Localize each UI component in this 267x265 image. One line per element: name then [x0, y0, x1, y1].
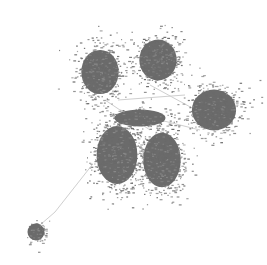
node-cluster-small-outlier — [27, 220, 50, 253]
network-graph — [0, 0, 267, 265]
network-graph-canvas — [0, 0, 267, 265]
graph-edge — [55, 165, 92, 212]
node-cluster-right — [170, 75, 267, 146]
node-cluster-top-left — [58, 26, 141, 113]
graph-node-clusters — [27, 25, 267, 253]
